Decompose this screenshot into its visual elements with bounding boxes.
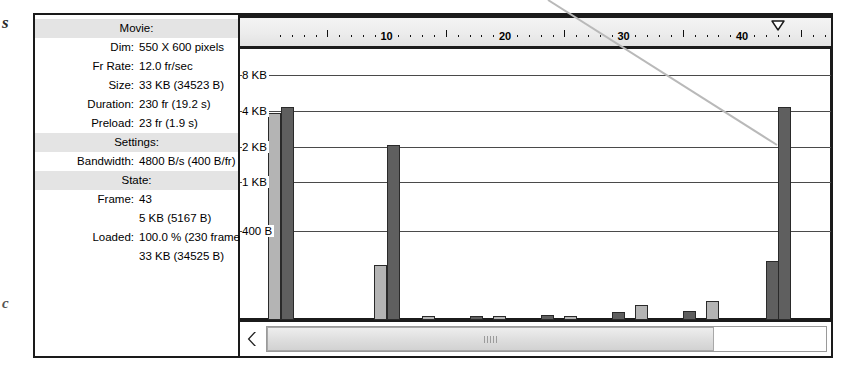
chart-bar[interactable]	[422, 316, 435, 320]
ruler-tick-minor	[470, 35, 471, 37]
grip-dots-icon	[484, 336, 497, 343]
ruler-tick-minor	[304, 35, 305, 37]
ruler-tick-minor	[825, 35, 826, 37]
margin-glyph-top: s	[2, 14, 9, 31]
bandwidth-chart-pane: 10203040 8 KB4 KB2 KB1 KB400 B	[240, 15, 831, 356]
ruler-tick-minor	[481, 35, 482, 37]
ruler-tick-minor	[671, 35, 672, 37]
ruler-tick-minor	[517, 35, 518, 37]
info-row: Loaded:100.0 % (230 frames)	[35, 228, 238, 247]
horizontal-scrollbar[interactable]	[240, 320, 831, 356]
y-axis-tick-label: 1 KB	[242, 176, 269, 188]
y-axis-tick-label: 400 B	[242, 225, 274, 237]
info-row-value: 4800 B/s (400 B/fr)	[139, 152, 236, 171]
info-row-value: 230 fr (19.2 s)	[139, 95, 211, 114]
info-row: 5 KB (5167 B)	[35, 209, 238, 228]
ruler-label: 40	[736, 30, 748, 42]
info-row-label: Dim:	[35, 38, 139, 57]
timeline-ruler[interactable]: 10203040	[240, 15, 831, 49]
ruler-tick-minor	[647, 35, 648, 37]
info-row-label: Duration:	[35, 95, 139, 114]
ruler-label: 10	[381, 30, 393, 42]
info-row-label: Loaded:	[35, 228, 139, 247]
chart-bar[interactable]	[541, 315, 554, 320]
y-axis-tick-label: 4 KB	[242, 105, 269, 117]
ruler-tick-minor	[541, 35, 542, 37]
ruler-tick-minor	[410, 35, 411, 37]
ruler-tick-minor	[434, 35, 435, 37]
ruler-tick-minor	[292, 35, 293, 37]
ruler-tick-minor	[375, 35, 376, 37]
scrollbar-track[interactable]	[266, 326, 827, 352]
chart-bar[interactable]	[683, 311, 696, 320]
ruler-tick-major	[801, 30, 802, 37]
info-section-header: State:	[35, 171, 238, 190]
info-section-header: Settings:	[35, 133, 238, 152]
ruler-tick-minor	[659, 35, 660, 37]
chart-bar[interactable]	[470, 316, 483, 320]
chart-bar[interactable]	[706, 301, 719, 320]
info-row-value: 12.0 fr/sec	[139, 57, 193, 76]
ruler-tick-minor	[707, 35, 708, 37]
info-row-value: 100.0 % (230 frames)	[139, 228, 250, 247]
chart-bar[interactable]	[778, 107, 791, 320]
gridline	[240, 75, 831, 76]
gridline	[240, 231, 831, 232]
chart-bar[interactable]	[268, 113, 281, 320]
info-row-label: Preload:	[35, 114, 139, 133]
info-row: Frame:43	[35, 190, 238, 209]
info-row: Preload:23 fr (1.9 s)	[35, 114, 238, 133]
info-section-label: State:	[121, 174, 151, 186]
plot-right-border	[830, 49, 831, 320]
ruler-tick-minor	[422, 35, 423, 37]
ruler-label: 30	[617, 30, 629, 42]
ruler-tick-minor	[493, 35, 494, 37]
info-row: Fr Rate:12.0 fr/sec	[35, 57, 238, 76]
chart-bar[interactable]	[564, 316, 577, 320]
ruler-tick-minor	[363, 35, 364, 37]
ruler-tick-minor	[789, 35, 790, 37]
info-row-value: 23 fr (1.9 s)	[139, 114, 198, 133]
ruler-tick-minor	[612, 35, 613, 37]
ruler-tick-minor	[316, 35, 317, 37]
info-row-value: 550 X 600 pixels	[139, 38, 224, 57]
ruler-tick-minor	[588, 35, 589, 37]
gridline	[240, 111, 831, 112]
ruler-tick-minor	[529, 35, 530, 37]
chart-bar[interactable]	[635, 305, 648, 320]
chart-bar[interactable]	[387, 145, 400, 320]
chart-bar[interactable]	[374, 265, 387, 320]
info-section-header: Movie:	[35, 19, 238, 38]
frame-size-plot: 8 KB4 KB2 KB1 KB400 B	[240, 49, 831, 320]
ruler-tick-minor	[600, 35, 601, 37]
ruler-tick-minor	[576, 35, 577, 37]
ruler-tick-major	[446, 30, 447, 37]
ruler-tick-major	[683, 30, 684, 37]
info-row-label: Fr Rate:	[35, 57, 139, 76]
info-row-value: 43	[139, 190, 152, 209]
ruler-tick-minor	[778, 35, 779, 37]
info-row-value: 33 KB (34523 B)	[139, 76, 224, 95]
ruler-tick-minor	[553, 35, 554, 37]
info-row: Duration:230 fr (19.2 s)	[35, 95, 238, 114]
info-section-label: Movie:	[120, 22, 154, 34]
info-row-value: 5 KB (5167 B)	[139, 209, 211, 228]
ruler-tick-minor	[398, 35, 399, 37]
chart-bar[interactable]	[612, 312, 625, 320]
ruler-tick-minor	[813, 35, 814, 37]
info-section-label: Settings:	[114, 136, 159, 148]
gridline	[240, 182, 831, 183]
ruler-tick-minor	[280, 35, 281, 37]
info-row-label: Size:	[35, 76, 139, 95]
gridline	[240, 147, 831, 148]
playhead-marker[interactable]	[771, 20, 785, 31]
ruler-tick-minor	[635, 35, 636, 37]
info-row-value: 33 KB (34525 B)	[139, 247, 224, 266]
chart-bar[interactable]	[493, 316, 506, 320]
info-row-label: Bandwidth:	[35, 152, 139, 171]
ruler-tick-minor	[339, 35, 340, 37]
ruler-tick-major	[327, 30, 328, 37]
scrollbar-thumb[interactable]	[267, 327, 714, 351]
chart-bar[interactable]	[281, 107, 294, 320]
scroll-left-arrow-icon[interactable]	[240, 322, 266, 356]
